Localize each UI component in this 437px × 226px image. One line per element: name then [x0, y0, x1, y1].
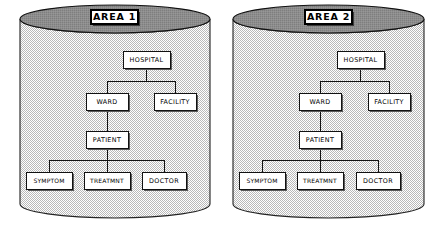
node-label-patient-area-1: PATIENT	[93, 136, 121, 144]
node-label-symptom-area-1: SYMPTOM	[33, 177, 64, 184]
node-label-treatmnt-area-2: TREATMNT	[302, 177, 337, 184]
node-label-symptom-area-2: SYMPTOM	[246, 177, 277, 184]
node-label-facility-area-2: FACILITY	[374, 98, 404, 106]
node-label-patient-area-2: PATIENT	[306, 136, 334, 144]
node-label-hospital-area-2: HOSPITAL	[344, 56, 378, 64]
diagram-canvas: AREA 1HOSPITALWARDFACILITYPATIENTSYMPTOM…	[0, 0, 437, 226]
node-label-hospital-area-1: HOSPITAL	[130, 56, 164, 64]
diagram-root: AREA 1HOSPITALWARDFACILITYPATIENTSYMPTOM…	[0, 0, 437, 226]
node-label-doctor-area-1: DOCTOR	[149, 177, 179, 185]
node-label-treatmnt-area-1: TREATMNT	[89, 177, 124, 184]
node-label-ward-area-1: WARD	[96, 98, 117, 106]
area-label-text-area-1: AREA 1	[93, 11, 136, 22]
node-label-ward-area-2: WARD	[309, 98, 330, 106]
node-label-facility-area-1: FACILITY	[160, 98, 190, 106]
node-label-doctor-area-2: DOCTOR	[363, 177, 393, 185]
area-label-text-area-2: AREA 2	[307, 11, 350, 22]
